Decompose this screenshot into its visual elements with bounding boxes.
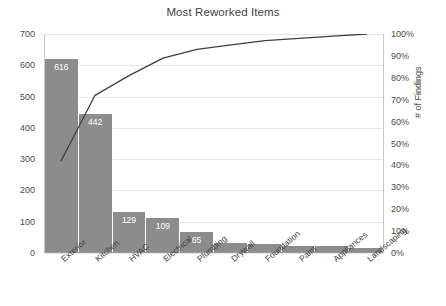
y-axis-left-tick: 400 (0, 123, 40, 133)
bar-slot: 18 (282, 34, 316, 252)
bar-value-label: 442 (79, 117, 112, 127)
y-axis-left-tick: 300 (0, 154, 40, 164)
y-axis-right-tick: 100% (386, 29, 426, 39)
y-axis-left: 0100200300400500600700 (0, 34, 40, 253)
y-axis-right-tick: 60% (386, 117, 426, 127)
bar-value-label: 18 (315, 235, 348, 245)
y-axis-right-tick: 40% (386, 160, 426, 170)
bar-value-label: 109 (146, 221, 179, 231)
bar-slot: 18 (315, 34, 349, 252)
y-axis-right-tick: 50% (386, 139, 426, 149)
y-axis-left-tick: 700 (0, 29, 40, 39)
x-axis-label-slot: Drywall (214, 256, 248, 306)
y-axis-left-tick: 100 (0, 217, 40, 227)
y-axis-left-tick: 0 (0, 248, 40, 258)
y-axis-right-tick: 90% (386, 51, 426, 61)
x-axis-label-slot: Appliances (316, 256, 350, 306)
y-axis-right-tick: 20% (386, 204, 426, 214)
chart-title: Most Reworked Items (0, 6, 446, 18)
bar-series: 616442129109653027181812 (45, 34, 383, 252)
x-axis-label-slot: Exterior (44, 256, 78, 306)
plot-area: 616442129109653027181812 (44, 34, 384, 253)
x-axis-label-slot: Kitchen (78, 256, 112, 306)
bar-slot: 616 (45, 34, 79, 252)
bar-slot: 129 (113, 34, 147, 252)
pareto-chart: Most Reworked Items 01002003004005006007… (0, 0, 446, 306)
bar[interactable]: 616 (45, 59, 79, 252)
bar-slot: 12 (349, 34, 383, 252)
bar-value-label: 616 (45, 62, 78, 72)
bar-value-label: 129 (113, 215, 146, 225)
bar-slot: 30 (214, 34, 248, 252)
x-axis-category-labels: ExteriorKitchenHVACElectricalPlumbingDry… (44, 256, 384, 306)
y-axis-left-tick: 600 (0, 60, 40, 70)
y-axis-right-tick: 0% (386, 248, 426, 258)
y-axis-left-tick: 500 (0, 92, 40, 102)
x-axis-label-slot: HVAC (112, 256, 146, 306)
bar[interactable]: 442 (79, 114, 113, 252)
x-axis-label-slot: Electrical (146, 256, 180, 306)
x-axis-label-slot: Plumbing (180, 256, 214, 306)
bar-slot: 65 (180, 34, 214, 252)
y-axis-right-title: # of Findings (413, 66, 423, 118)
bar-slot: 109 (146, 34, 180, 252)
bar-slot: 27 (248, 34, 282, 252)
x-axis-label-slot: Foundation (248, 256, 282, 306)
x-axis-label-slot: Landscaping (350, 256, 384, 306)
y-axis-left-tick: 200 (0, 185, 40, 195)
bar-slot: 442 (79, 34, 113, 252)
x-axis-label-slot: Paint (282, 256, 316, 306)
y-axis-right-tick: 30% (386, 182, 426, 192)
